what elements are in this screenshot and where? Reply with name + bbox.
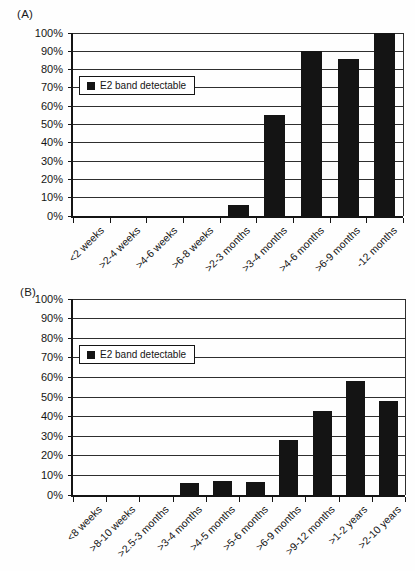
y-tick-label: 10% [0, 469, 63, 481]
gridline [73, 318, 405, 319]
x-tick [139, 497, 140, 502]
y-tick-label: 100% [0, 27, 63, 39]
x-tick [73, 497, 74, 502]
bar [301, 51, 322, 216]
y-tick-label: 50% [0, 118, 63, 130]
x-tick [272, 497, 273, 502]
x-tick [173, 497, 174, 502]
x-axis-line [71, 495, 405, 497]
bar [338, 59, 359, 216]
y-tick-label: 60% [0, 100, 63, 112]
y-tick-label: 0% [0, 489, 63, 501]
x-tick [239, 497, 240, 502]
y-tick-label: 60% [0, 371, 63, 383]
plot-right-border [405, 299, 406, 495]
panel-b-legend: E2 band detectable [79, 345, 195, 364]
legend-label: E2 band detectable [100, 80, 186, 91]
y-tick-label: 80% [0, 63, 63, 75]
y-tick-label: 40% [0, 136, 63, 148]
y-tick-label: 70% [0, 351, 63, 363]
bar [346, 381, 365, 495]
y-tick-label: 80% [0, 332, 63, 344]
gridline [73, 299, 405, 300]
y-axis-line [71, 299, 73, 497]
x-tick [256, 218, 257, 223]
x-tick [305, 497, 306, 502]
plot-area [73, 299, 405, 495]
y-tick-label: 40% [0, 410, 63, 422]
y-tick-label: 20% [0, 173, 63, 185]
x-tick [366, 218, 367, 223]
y-axis-line [71, 33, 73, 218]
legend-square-marker-icon [87, 351, 95, 359]
x-tick [220, 218, 221, 223]
x-tick [106, 497, 107, 502]
bar [213, 481, 232, 495]
bar [180, 483, 199, 495]
plot-right-border [403, 33, 404, 216]
x-axis-line [71, 216, 403, 218]
y-tick-label: 10% [0, 191, 63, 203]
x-tick [110, 218, 111, 223]
gridline [73, 338, 405, 339]
bar [374, 33, 395, 216]
panel-a: (A) E2 band detectable 0%10%20%30%40%50%… [0, 0, 415, 285]
x-tick [372, 497, 373, 502]
y-tick-label: 0% [0, 210, 63, 222]
y-tick-label: 70% [0, 81, 63, 93]
gridline [73, 377, 405, 378]
bar [279, 440, 298, 495]
figure: (A) E2 band detectable 0%10%20%30%40%50%… [0, 0, 415, 571]
x-tick [183, 218, 184, 223]
bar [246, 482, 265, 495]
gridline [73, 51, 403, 52]
x-tick [330, 218, 331, 223]
x-tick [146, 218, 147, 223]
legend-square-marker-icon [87, 82, 95, 90]
y-tick-label: 90% [0, 45, 63, 57]
x-tick [403, 218, 404, 223]
y-tick-label: 30% [0, 430, 63, 442]
bar [313, 411, 332, 495]
y-tick-label: 100% [0, 293, 63, 305]
plot-area [73, 33, 403, 216]
x-tick [293, 218, 294, 223]
x-tick [206, 497, 207, 502]
x-tick [339, 497, 340, 502]
bar [379, 401, 398, 495]
panel-a-legend: E2 band detectable [79, 76, 195, 95]
x-tick [73, 218, 74, 223]
x-tick [405, 497, 406, 502]
gridline [73, 33, 403, 34]
panel-a-label: (A) [17, 8, 33, 20]
bar [264, 115, 285, 216]
y-tick-label: 90% [0, 312, 63, 324]
panel-b: (B) E2 band detectable 0%10%20%30%40%50%… [0, 280, 415, 571]
y-tick-label: 30% [0, 155, 63, 167]
legend-label: E2 band detectable [100, 349, 186, 360]
y-tick-label: 20% [0, 449, 63, 461]
bar [228, 205, 249, 216]
y-tick-label: 50% [0, 391, 63, 403]
